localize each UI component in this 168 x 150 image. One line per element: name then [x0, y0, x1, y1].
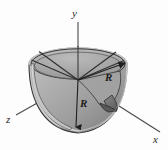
radius-label-upper: R	[104, 71, 112, 83]
figure-canvas: y z x	[0, 0, 168, 150]
hemisphere-wedge-figure: y z x	[0, 0, 168, 150]
axis-z-label: z	[5, 113, 11, 125]
axis-y-label: y	[71, 7, 77, 19]
radius-label-lower: R	[79, 97, 87, 109]
axis-x-label: x	[152, 133, 158, 145]
